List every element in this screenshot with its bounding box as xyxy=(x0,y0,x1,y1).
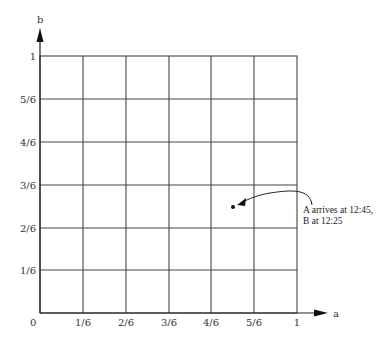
y-axis-arrow-icon xyxy=(37,28,44,42)
annotation-line-1: A arrives at 12:45, xyxy=(303,205,373,215)
x-axis-arrow-icon xyxy=(314,310,328,317)
annotation-arrow xyxy=(241,191,312,205)
y-tick-labels: 1/6 2/6 3/6 4/6 5/6 1 xyxy=(20,51,36,276)
x-tick-label: 1/6 xyxy=(75,317,91,328)
y-axis-label: b xyxy=(37,14,43,25)
origin-label: 0 xyxy=(30,317,36,328)
annotation-arrowhead-icon xyxy=(237,198,246,206)
y-tick-label: 2/6 xyxy=(20,223,36,234)
x-tick-label: 5/6 xyxy=(246,317,262,328)
y-tick-label: 1 xyxy=(30,51,36,62)
x-tick-label: 2/6 xyxy=(118,317,134,328)
data-point xyxy=(231,205,235,209)
x-tick-labels: 1/6 2/6 3/6 4/6 5/6 1 xyxy=(75,317,300,328)
y-tick-label: 4/6 xyxy=(20,137,36,148)
y-tick-label: 5/6 xyxy=(20,94,36,105)
y-tick-label: 3/6 xyxy=(20,180,36,191)
x-tick-label: 3/6 xyxy=(161,317,177,328)
x-tick-label: 4/6 xyxy=(203,317,219,328)
grid xyxy=(40,56,297,313)
diagram-canvas: a b 0 1/6 2/6 3/6 4/6 5/6 1 1/6 2/6 3/6 … xyxy=(0,0,386,344)
y-tick-label: 1/6 xyxy=(20,265,36,276)
x-axis-label: a xyxy=(333,308,339,319)
axes xyxy=(40,40,316,313)
x-tick-label: 1 xyxy=(294,317,300,328)
annotation-line-2: B at 12:25 xyxy=(303,216,343,226)
